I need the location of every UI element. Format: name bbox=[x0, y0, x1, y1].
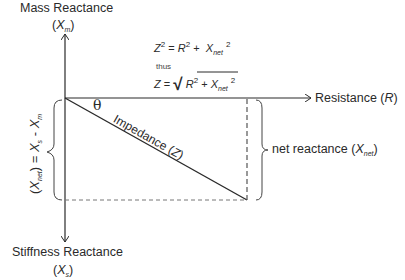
stiffness-reactance-title: Stiffness Reactance bbox=[12, 245, 123, 259]
subscript-m: m bbox=[65, 26, 71, 33]
net-reactance-label: net reactance (Xnet) bbox=[272, 142, 378, 157]
mass-reactance-symbol: (Xm) bbox=[52, 18, 75, 33]
resistance-label: Resistance (R) bbox=[315, 91, 398, 105]
right-brace bbox=[256, 100, 268, 200]
net-reactance-equation: (Xnet) = Xs - Xm bbox=[27, 114, 43, 194]
mass-reactance-title: Mass Reactance bbox=[20, 1, 113, 15]
radical-icon: √ bbox=[173, 75, 182, 94]
equation-connector: thus bbox=[156, 62, 171, 71]
symbol-x: X bbox=[56, 18, 64, 32]
equation-line-1: Z2 = R2 + Xnet 2 bbox=[154, 40, 230, 56]
stiffness-reactance-symbol: (Xs) bbox=[53, 263, 73, 278]
left-brace bbox=[47, 100, 62, 200]
equation-line-2: Z = √ R2 + Xnet 2 bbox=[154, 75, 235, 95]
theta-label: θ bbox=[93, 97, 101, 113]
